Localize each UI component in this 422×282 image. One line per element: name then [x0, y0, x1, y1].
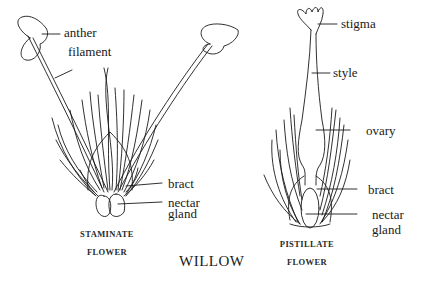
pistillate-nectar-gland	[301, 188, 319, 228]
staminate-caption: STAMINATE FLOWER	[72, 230, 142, 257]
label-filament: filament	[68, 45, 111, 58]
staminate-anther-right	[201, 24, 238, 54]
label-staminate-bract: bract	[168, 177, 194, 190]
staminate-flower-drawing	[18, 16, 238, 216]
pistillate-caption-line1: PISTILLATE	[272, 240, 342, 249]
staminate-caption-line2: FLOWER	[72, 248, 142, 257]
pistillate-stigma	[298, 8, 324, 35]
pistillate-flower-drawing	[264, 8, 357, 229]
diagram-title: WILLOW	[179, 253, 244, 270]
staminate-hairs	[52, 68, 158, 196]
staminate-nectar-gland-right	[109, 194, 125, 217]
label-style: style	[333, 66, 358, 79]
pistillate-caption-line2: FLOWER	[272, 258, 342, 267]
label-pistillate-nectar: nectar	[372, 208, 404, 221]
label-pistillate-gland: gland	[372, 223, 401, 236]
label-staminate-gland: gland	[168, 207, 197, 220]
pistillate-style-ovary-right	[316, 34, 325, 185]
pistillate-style-ovary-left	[298, 30, 311, 185]
staminate-filament-right	[114, 44, 208, 192]
leader-filament	[55, 70, 72, 78]
willow-flower-diagram	[0, 0, 422, 282]
pistillate-hairs	[264, 108, 350, 224]
label-stigma: stigma	[341, 17, 376, 30]
label-ovary: ovary	[366, 124, 396, 137]
staminate-caption-line1: STAMINATE	[72, 230, 142, 239]
pistillate-caption: PISTILLATE FLOWER	[272, 240, 342, 267]
label-pistillate-bract: bract	[368, 183, 394, 196]
label-anther: anther	[64, 26, 96, 39]
